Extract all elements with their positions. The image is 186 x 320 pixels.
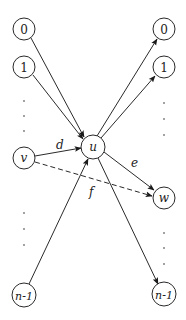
node-right-1: 1 xyxy=(153,56,175,78)
node-left-n-1: n-1 xyxy=(12,283,36,307)
edge-ln1-u xyxy=(29,159,88,284)
svg-text:1: 1 xyxy=(20,61,28,75)
node-u: u xyxy=(81,135,105,159)
svg-text:w: w xyxy=(159,191,170,205)
edge-label-e: e xyxy=(131,156,138,170)
edge-label-f: f xyxy=(88,185,96,199)
node-v: v xyxy=(13,147,35,169)
left-ellipsis-upper xyxy=(23,100,25,132)
svg-text:n-1: n-1 xyxy=(15,290,33,303)
edge-u-rn1 xyxy=(98,158,158,284)
svg-text:n-1: n-1 xyxy=(155,289,173,302)
node-left-1: 1 xyxy=(13,56,35,78)
node-right-n-1: n-1 xyxy=(152,282,176,306)
edge-l0-u xyxy=(31,38,84,137)
svg-text:u: u xyxy=(89,140,97,154)
edge-u-w xyxy=(104,152,154,190)
graph-diagram: d e f 0 1 v n-1 u xyxy=(0,0,186,320)
edge-l1-u xyxy=(33,75,83,139)
edge-u-r0 xyxy=(97,39,157,136)
right-ellipsis-lower xyxy=(163,232,165,265)
right-ellipsis-upper xyxy=(163,102,165,136)
node-right-0: 0 xyxy=(153,18,175,40)
node-left-0: 0 xyxy=(13,18,35,40)
node-w: w xyxy=(153,187,175,209)
svg-text:0: 0 xyxy=(160,23,168,37)
left-ellipsis-lower xyxy=(23,212,25,246)
edge-label-d: d xyxy=(56,138,64,152)
svg-text:1: 1 xyxy=(160,61,168,75)
svg-text:0: 0 xyxy=(20,23,28,37)
svg-text:v: v xyxy=(21,151,28,165)
